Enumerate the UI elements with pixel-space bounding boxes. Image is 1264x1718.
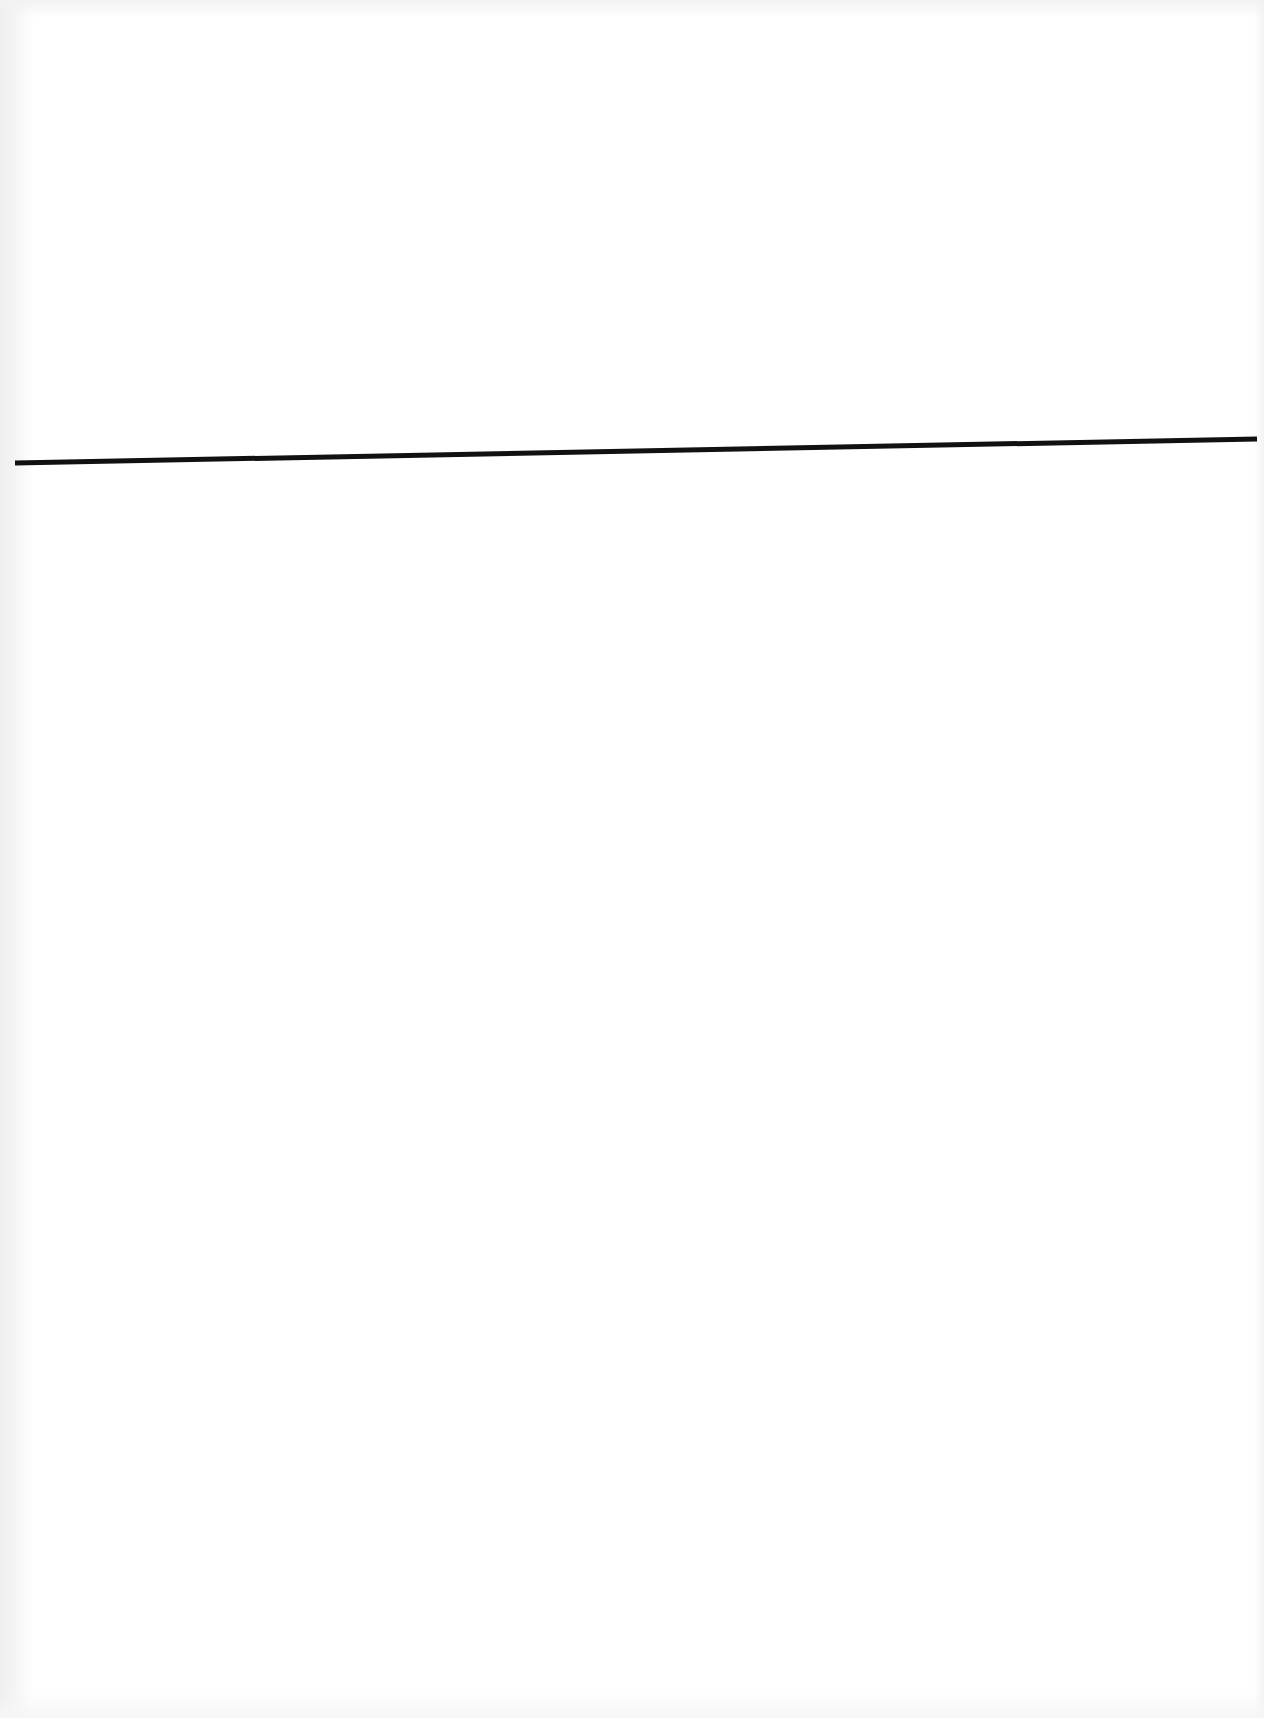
scanned-page	[0, 0, 1264, 1718]
horizontal-rule	[0, 0, 1264, 1718]
divider-line	[15, 439, 1257, 463]
